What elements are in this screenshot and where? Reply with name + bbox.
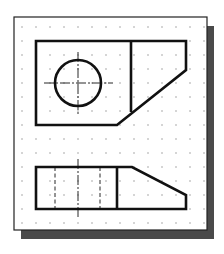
grid-dot [105, 222, 106, 223]
grid-dot [49, 138, 50, 139]
grid-dot [91, 54, 92, 55]
grid-dot [189, 222, 190, 223]
grid-dot [105, 110, 106, 111]
grid-dot [147, 124, 148, 125]
grid-dot [133, 54, 134, 55]
grid-dot [147, 96, 148, 97]
grid-dot [119, 68, 120, 69]
grid-dot [161, 26, 162, 27]
grid-dot [189, 152, 190, 153]
grid-dot [119, 110, 120, 111]
grid-dot [119, 96, 120, 97]
grid-dot [161, 138, 162, 139]
grid-dot [133, 26, 134, 27]
technical-drawing [0, 0, 224, 254]
grid-dot [119, 26, 120, 27]
grid-dot [189, 82, 190, 83]
grid-dot [161, 96, 162, 97]
grid-dot [21, 222, 22, 223]
grid-dot [161, 222, 162, 223]
grid-dot [203, 180, 204, 181]
grid-dot [119, 138, 120, 139]
grid-dot [119, 194, 120, 195]
grid-dot [147, 110, 148, 111]
grid-dot [21, 96, 22, 97]
grid-paper [14, 17, 207, 230]
grid-dot [21, 54, 22, 55]
grid-dot [21, 194, 22, 195]
grid-dot [133, 138, 134, 139]
grid-dot [133, 194, 134, 195]
grid-dot [203, 152, 204, 153]
grid-dot [119, 82, 120, 83]
grid-dot [161, 194, 162, 195]
grid-dot [147, 68, 148, 69]
grid-dot [21, 152, 22, 153]
grid-dot [63, 180, 64, 181]
grid-dot [175, 96, 176, 97]
grid-dot [189, 68, 190, 69]
grid-dot [63, 96, 64, 97]
grid-dot [175, 82, 176, 83]
grid-dot [147, 138, 148, 139]
grid-dot [175, 124, 176, 125]
grid-dot [147, 82, 148, 83]
grid-dot [91, 222, 92, 223]
grid-dot [175, 26, 176, 27]
grid-dot [147, 222, 148, 223]
grid-dot [147, 152, 148, 153]
grid-dot [189, 180, 190, 181]
grid-dot [21, 26, 22, 27]
grid-dot [189, 138, 190, 139]
grid-dot [105, 138, 106, 139]
grid-dot [49, 96, 50, 97]
grid-dot [203, 54, 204, 55]
grid-dot [105, 152, 106, 153]
grid-dot [189, 166, 190, 167]
grid-dot [35, 138, 36, 139]
grid-dot [161, 82, 162, 83]
grid-dot [63, 222, 64, 223]
grid-dot [63, 110, 64, 111]
grid-dot [133, 222, 134, 223]
grid-dot [63, 26, 64, 27]
grid-dot [35, 222, 36, 223]
grid-dot [161, 166, 162, 167]
grid-dot [91, 26, 92, 27]
grid-dot [119, 54, 120, 55]
grid-dot [175, 222, 176, 223]
grid-dot [175, 54, 176, 55]
grid-dot [203, 82, 204, 83]
grid-dot [91, 110, 92, 111]
grid-dot [77, 138, 78, 139]
grid-dot [133, 96, 134, 97]
grid-dot [203, 222, 204, 223]
grid-dot [147, 166, 148, 167]
grid-dot [105, 54, 106, 55]
grid-dot [133, 82, 134, 83]
grid-dot [63, 68, 64, 69]
grid-dot [203, 110, 204, 111]
grid-dot [49, 68, 50, 69]
grid-dot [203, 40, 204, 41]
grid-dot [21, 138, 22, 139]
grid-dot [21, 82, 22, 83]
grid-dot [189, 194, 190, 195]
grid-dot [189, 26, 190, 27]
grid-dot [21, 180, 22, 181]
grid-dot [161, 152, 162, 153]
grid-dot [189, 124, 190, 125]
grid-dot [91, 96, 92, 97]
grid-dot [175, 110, 176, 111]
grid-dot [189, 110, 190, 111]
grid-dot [203, 208, 204, 209]
grid-dot [21, 110, 22, 111]
grid-dot [119, 222, 120, 223]
grid-dot [63, 152, 64, 153]
grid-dot [203, 96, 204, 97]
grid-dot [175, 138, 176, 139]
grid-dot [161, 124, 162, 125]
grid-dot [161, 54, 162, 55]
grid-dot [203, 166, 204, 167]
grid-dot [105, 26, 106, 27]
